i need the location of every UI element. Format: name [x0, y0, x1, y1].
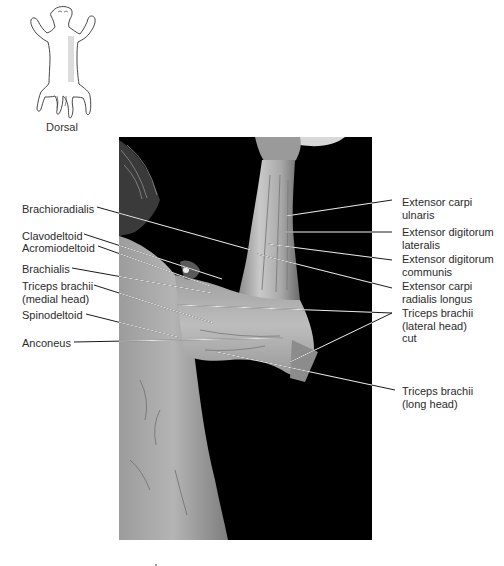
cat-dorsal-silhouette-icon	[31, 7, 95, 118]
label-acromiodeltoid: Acromiodeltoid	[22, 242, 95, 255]
label-text: Extensor digitorum	[402, 253, 494, 266]
label-spinodeltoid: Spinodeltoid	[22, 309, 83, 322]
label-text: Brachioradialis	[22, 203, 94, 216]
label-extensor-carpi-radialis-longus: Extensor carpiradialis longus	[402, 280, 472, 305]
label-text: Extensor carpi	[402, 280, 472, 293]
label-triceps-medial: Triceps brachii(medial head)	[22, 280, 93, 305]
label-clavodeltoid: Clavodeltoid	[22, 230, 83, 243]
label-triceps-long: Triceps brachii(long head)	[402, 385, 473, 410]
label-text: Anconeus	[22, 337, 71, 350]
label-text: Triceps brachii	[402, 385, 473, 398]
label-text: (lateral head)	[402, 320, 473, 333]
label-text: radialis longus	[402, 293, 472, 306]
label-text: (long head)	[402, 398, 473, 411]
label-text: Spinodeltoid	[22, 309, 83, 322]
label-anconeus: Anconeus	[22, 337, 71, 350]
label-extensor-carpi-ulnaris: Extensor carpiulnaris	[402, 196, 472, 221]
label-extensor-digitorum-communis: Extensor digitorumcommunis	[402, 253, 494, 278]
label-text: Brachialis	[22, 263, 70, 276]
label-extensor-digitorum-lateralis: Extensor digitorumlateralis	[402, 226, 494, 251]
label-text: Clavodeltoid	[22, 230, 83, 243]
label-brachioradialis: Brachioradialis	[22, 203, 94, 216]
orientation-caption: Dorsal	[30, 121, 94, 133]
label-text: Extensor digitorum	[402, 226, 494, 239]
label-text: (medial head)	[22, 293, 93, 306]
label-text: Acromiodeltoid	[22, 242, 95, 255]
label-text: lateralis	[402, 239, 494, 252]
label-triceps-lateral-cut: Triceps brachii(lateral head)cut	[402, 307, 473, 345]
label-text: ulnaris	[402, 209, 472, 222]
label-text: cut	[402, 332, 473, 345]
label-text: Triceps brachii	[402, 307, 473, 320]
label-text: Triceps brachii	[22, 280, 93, 293]
label-brachialis: Brachialis	[22, 263, 70, 276]
label-text: communis	[402, 266, 494, 279]
label-text: Extensor carpi	[402, 196, 472, 209]
